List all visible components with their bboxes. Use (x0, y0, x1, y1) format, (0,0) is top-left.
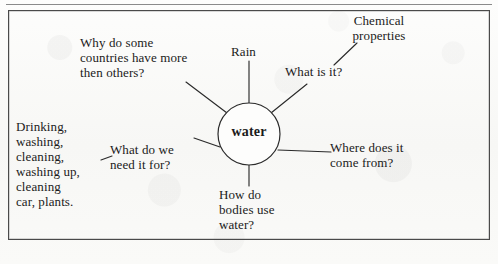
center-node-label: water (219, 124, 279, 140)
spoke-what-is-it (271, 84, 307, 113)
connector-chemical-properties (334, 43, 357, 65)
branch-why-countries: Why do some countries have more then oth… (80, 35, 212, 80)
branch-need-it-for: What do we need it for? (110, 142, 202, 172)
spoke-why-countries (186, 82, 227, 113)
branch-what-is-it: What is it? (285, 64, 371, 79)
branch-where-from: Where does it come from? (330, 140, 440, 170)
sub-branch-chemical-properties: Chemical properties (333, 13, 425, 43)
sub-branch-uses-list: Drinking, washing, cleaning, washing up,… (16, 119, 102, 209)
branch-rain: Rain (231, 44, 281, 59)
mind-map-page: water Why do some countries have more th… (0, 0, 498, 264)
branch-how-bodies-use: How do bodies use water? (219, 187, 309, 232)
spoke-where-from (278, 150, 331, 152)
